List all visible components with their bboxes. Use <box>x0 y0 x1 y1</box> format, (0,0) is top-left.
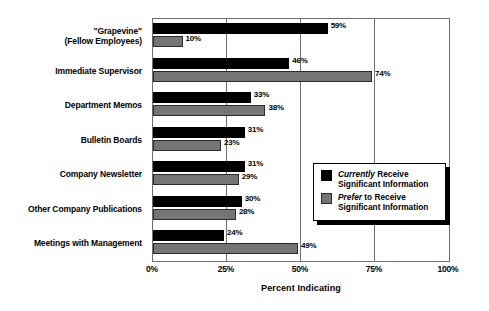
category-label-line: Company Newsletter <box>60 169 142 180</box>
chart-legend: Currently Receive Significant Informatio… <box>313 163 446 221</box>
legend-rest-currently: Receive <box>375 169 409 179</box>
category-label: Other Company Publications <box>0 192 148 227</box>
bar-current <box>153 127 245 138</box>
legend-line2-prefer: Significant Information <box>338 202 428 212</box>
category-label-line: Immediate Supervisor <box>55 66 142 77</box>
bar-prefer <box>153 140 221 151</box>
legend-rest-prefer: to Receive <box>362 192 406 202</box>
bar-value-label: 38% <box>268 103 283 112</box>
x-axis-tick-label: 50% <box>292 264 308 274</box>
bar-value-label: 49% <box>301 241 316 250</box>
category-label: Meetings with Management <box>0 226 148 261</box>
bar-prefer <box>153 209 236 220</box>
legend-swatch-prefer-icon <box>321 193 332 204</box>
horizontal-bar-chart: "Grapevine"(Fellow Employees)Immediate S… <box>0 0 489 311</box>
bar-row: 46%74% <box>153 54 449 89</box>
legend-item: Currently Receive Significant Informatio… <box>321 169 440 189</box>
category-label-column: "Grapevine"(Fellow Employees)Immediate S… <box>0 19 148 261</box>
x-axis-title: Percent Indicating <box>152 283 450 293</box>
bar-prefer <box>153 71 372 82</box>
category-label: Department Memos <box>0 88 148 123</box>
x-axis-tick-label: 0% <box>146 264 158 274</box>
bar-current <box>153 161 245 172</box>
bar-value-label: 74% <box>375 69 390 78</box>
bar-prefer <box>153 174 239 185</box>
bar-row: 33%38% <box>153 88 449 123</box>
x-axis-tick-label: 75% <box>366 264 382 274</box>
bar-current <box>153 58 289 69</box>
bar-row: 31%23% <box>153 123 449 158</box>
category-label: Bulletin Boards <box>0 123 148 158</box>
bar-value-label: 23% <box>224 138 239 147</box>
x-axis-ticks: 0%25%50%75%100% <box>152 264 450 278</box>
category-label: Company Newsletter <box>0 157 148 192</box>
x-axis-tick-label: 25% <box>218 264 234 274</box>
legend-emphasis-currently: Currently <box>338 169 375 179</box>
category-label-line: Other Company Publications <box>28 204 142 215</box>
category-label-line: Meetings with Management <box>34 238 142 249</box>
bar-row: 24%49% <box>153 226 449 261</box>
bar-prefer <box>153 105 265 116</box>
bar-value-label: 10% <box>186 34 201 43</box>
bar-row: 59%10% <box>153 19 449 54</box>
legend-line2-currently: Significant Information <box>338 179 428 189</box>
bar-value-label: 24% <box>227 228 242 237</box>
category-label: "Grapevine"(Fellow Employees) <box>0 19 148 54</box>
bar-value-label: 46% <box>292 56 307 65</box>
bar-value-label: 59% <box>331 21 346 30</box>
category-label-line: (Fellow Employees) <box>64 36 142 47</box>
bar-value-label: 28% <box>239 207 254 216</box>
bar-value-label: 29% <box>242 172 257 181</box>
bar-prefer <box>153 243 298 254</box>
bar-value-label: 33% <box>254 90 269 99</box>
bar-current <box>153 230 224 241</box>
legend-label-prefer: Prefer to Receive Significant Informatio… <box>338 192 428 212</box>
bar-current <box>153 23 328 34</box>
bar-current <box>153 196 242 207</box>
category-label-line: Department Memos <box>65 100 142 111</box>
legend-item: Prefer to Receive Significant Informatio… <box>321 192 440 212</box>
bar-value-label: 31% <box>248 125 263 134</box>
x-axis-tick-label: 100% <box>438 264 459 274</box>
category-label-line: "Grapevine" <box>64 26 142 37</box>
legend-emphasis-prefer: Prefer <box>338 192 362 202</box>
bar-current <box>153 92 251 103</box>
category-label-line: Bulletin Boards <box>81 135 142 146</box>
bar-value-label: 30% <box>245 194 260 203</box>
legend-label-currently: Currently Receive Significant Informatio… <box>338 169 428 189</box>
bar-value-label: 31% <box>248 159 263 168</box>
category-label: Immediate Supervisor <box>0 54 148 89</box>
legend-swatch-currently-icon <box>321 170 332 181</box>
bar-prefer <box>153 36 183 47</box>
